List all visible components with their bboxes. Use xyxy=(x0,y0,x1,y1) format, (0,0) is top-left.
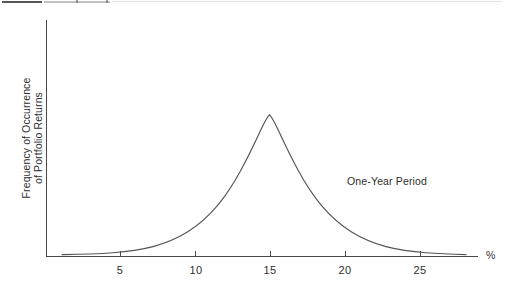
chart-figure: 5 10 15 20 25 % Frequency of Occurrence … xyxy=(0,0,515,290)
x-tick-label-5: 5 xyxy=(117,264,123,276)
x-tick-label-20: 20 xyxy=(339,264,352,276)
y-axis-label-line1: Frequency of Occurrence xyxy=(20,78,32,199)
y-axis-label-line2: of Portfolio Returns xyxy=(32,92,44,184)
y-axis-label-group: Frequency of Occurrence of Portfolio Ret… xyxy=(20,78,44,199)
x-tick-label-15: 15 xyxy=(264,264,277,276)
distribution-plot: 5 10 15 20 25 % Frequency of Occurrence … xyxy=(0,0,515,290)
curve-annotation-label: One-Year Period xyxy=(347,175,427,187)
x-axis-unit-label: % xyxy=(486,249,495,261)
x-tick-label-10: 10 xyxy=(190,264,203,276)
x-tick-label-25: 25 xyxy=(414,264,427,276)
